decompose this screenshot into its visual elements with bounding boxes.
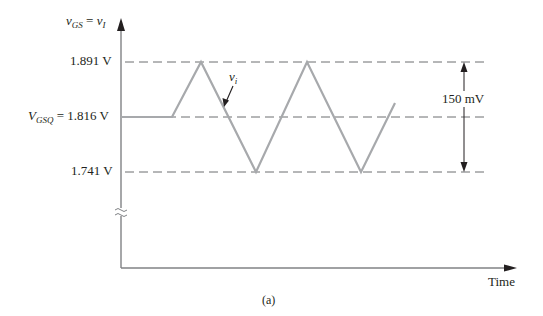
figure-caption: (a)	[262, 293, 275, 308]
waveform-diagram	[0, 0, 543, 316]
level-label-min: 1.741 V	[71, 163, 113, 179]
level-label-max: 1.891 V	[70, 53, 112, 69]
amplitude-label: 150 mV	[441, 91, 485, 107]
amplitude-arrow-down-icon	[461, 162, 468, 172]
axis-break-icon	[115, 209, 127, 217]
level-label-quiescent: VGSQ = 1.816 V	[28, 108, 109, 125]
reference-lines	[125, 62, 484, 172]
signal-label: vi	[229, 69, 237, 86]
x-axis-label: Time	[488, 274, 515, 290]
amplitude-arrow-up-icon	[461, 62, 468, 72]
y-axis-label: vGS = vI	[66, 13, 105, 30]
x-axis-arrow-icon	[504, 265, 517, 272]
signal-pointer	[226, 86, 233, 102]
y-axis-arrow-icon	[117, 18, 125, 31]
